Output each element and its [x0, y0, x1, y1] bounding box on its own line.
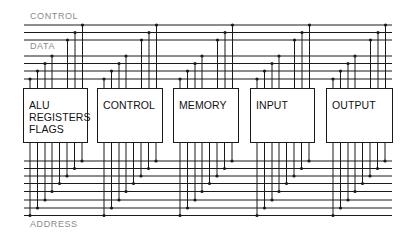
junction-dot: [36, 206, 39, 209]
junction-dot: [223, 31, 226, 34]
block-output: OUTPUT: [326, 88, 393, 143]
junction-dot: [110, 69, 113, 72]
block-label-line: INPUT: [256, 99, 288, 111]
block-label: INPUT: [256, 99, 288, 111]
junction-dot: [383, 159, 386, 162]
junction-dot: [263, 69, 266, 72]
junction-dot: [58, 182, 61, 185]
junction-dot: [124, 190, 127, 193]
junction-dot: [300, 31, 303, 34]
junction-dot: [147, 167, 150, 170]
junction-dot: [193, 62, 196, 65]
block-label-line: CONTROL: [103, 99, 155, 111]
junction-dot: [376, 167, 379, 170]
junction-dot: [200, 190, 203, 193]
junction-dot: [231, 23, 234, 26]
junction-dot: [293, 38, 296, 41]
junction-dot: [208, 182, 211, 185]
junction-dot: [102, 77, 105, 80]
junction-dot: [339, 69, 342, 72]
junction-dot: [65, 174, 68, 177]
junction-dot: [73, 167, 76, 170]
junction-dot: [384, 23, 387, 26]
junction-dot: [110, 206, 113, 209]
junction-dot: [81, 23, 84, 26]
junction-dot: [28, 77, 31, 80]
junction-dot: [186, 69, 189, 72]
junction-dot: [140, 38, 143, 41]
block-label-line: OUTPUT: [332, 99, 376, 111]
junction-dot: [117, 62, 120, 65]
block-label-line: FLAGS: [29, 123, 91, 135]
junction-dot: [331, 214, 334, 217]
junction-dot: [50, 190, 53, 193]
junction-dot: [147, 31, 150, 34]
junction-dot: [353, 190, 356, 193]
junction-dot: [292, 174, 295, 177]
junction-dot: [263, 206, 266, 209]
junction-dot: [368, 174, 371, 177]
block-label-line: MEMORY: [179, 99, 227, 111]
junction-dot: [369, 38, 372, 41]
block-input: INPUT: [250, 88, 315, 143]
junction-dot: [216, 38, 219, 41]
block-memory: MEMORY: [173, 88, 239, 143]
junction-dot: [193, 198, 196, 201]
junction-dot: [102, 214, 105, 217]
junction-dot: [178, 77, 181, 80]
junction-dot: [132, 182, 135, 185]
junction-dot: [43, 198, 46, 201]
junction-dot: [255, 214, 258, 217]
junction-dot: [339, 206, 342, 209]
control-bus-label: CONTROL: [30, 12, 78, 21]
junction-dot: [270, 62, 273, 65]
junction-dot: [43, 62, 46, 65]
junction-dot: [230, 159, 233, 162]
block-control: CONTROL: [97, 88, 163, 143]
junction-dot: [223, 167, 226, 170]
junction-dot: [124, 54, 127, 57]
junction-dot: [300, 167, 303, 170]
junction-dot: [139, 174, 142, 177]
block-label: ALUREGISTERSFLAGS: [29, 99, 91, 135]
block-label: MEMORY: [179, 99, 227, 111]
junction-dot: [28, 214, 31, 217]
address-bus-label: ADDRESS: [30, 220, 78, 229]
junction-dot: [346, 198, 349, 201]
junction-dot: [331, 77, 334, 80]
junction-dot: [277, 190, 280, 193]
junction-dot: [346, 62, 349, 65]
junction-dot: [80, 159, 83, 162]
junction-dot: [200, 54, 203, 57]
junction-dot: [73, 31, 76, 34]
block-label-line: REGISTERS: [29, 111, 91, 123]
junction-dot: [307, 159, 310, 162]
junction-dot: [308, 23, 311, 26]
block-label-line: ALU: [29, 99, 91, 111]
junction-dot: [255, 77, 258, 80]
junction-dot: [270, 198, 273, 201]
junction-dot: [353, 54, 356, 57]
junction-dot: [215, 174, 218, 177]
data-bus-label: DATA: [30, 42, 55, 51]
junction-dot: [285, 182, 288, 185]
junction-dot: [117, 198, 120, 201]
junction-dot: [36, 69, 39, 72]
junction-dot: [155, 23, 158, 26]
block-label: CONTROL: [103, 99, 155, 111]
junction-dot: [376, 31, 379, 34]
junction-dot: [178, 214, 181, 217]
junction-dot: [50, 54, 53, 57]
block-alu: ALUREGISTERSFLAGS: [23, 88, 88, 143]
junction-dot: [361, 182, 364, 185]
junction-dot: [186, 206, 189, 209]
junction-dot: [277, 54, 280, 57]
junction-dot: [154, 159, 157, 162]
block-label: OUTPUT: [332, 99, 376, 111]
junction-dot: [66, 38, 69, 41]
